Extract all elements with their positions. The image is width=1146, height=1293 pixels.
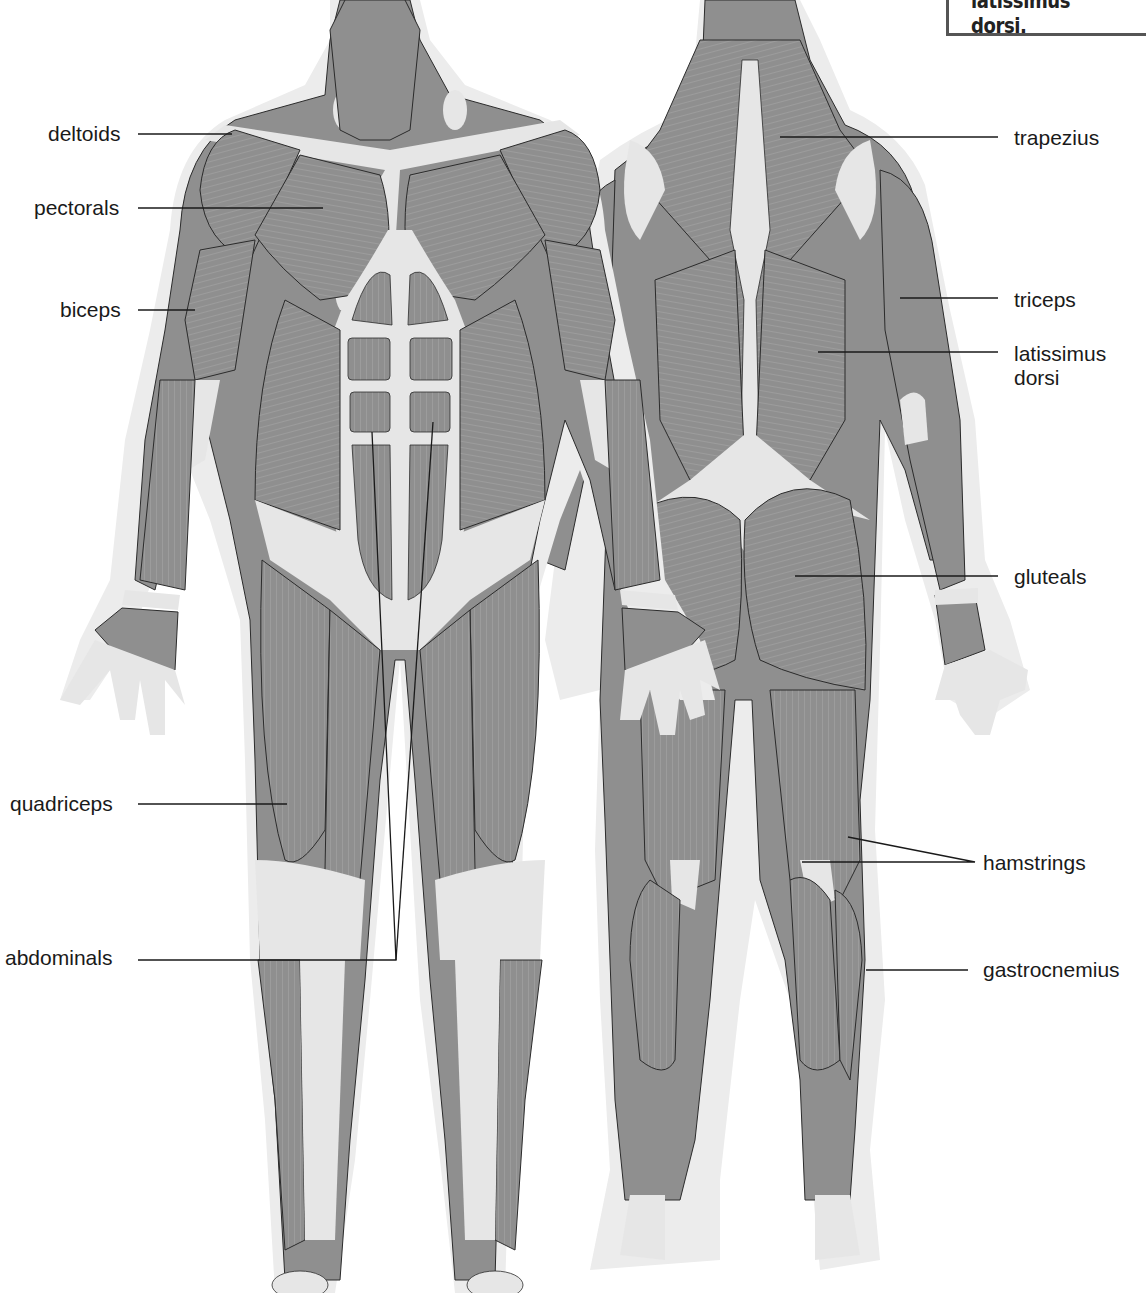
- label-hamstrings: hamstrings: [983, 851, 1086, 875]
- callout-box: latissimus dorsi.: [946, 0, 1146, 36]
- label-biceps: biceps: [60, 298, 121, 322]
- label-latissimus-dorsi: latissimus dorsi: [1014, 342, 1106, 390]
- label-triceps: triceps: [1014, 288, 1076, 312]
- back-figure: [540, 0, 1030, 1270]
- label-pectorals: pectorals: [34, 196, 119, 220]
- label-abdominals: abdominals: [5, 946, 112, 970]
- label-trapezius: trapezius: [1014, 126, 1099, 150]
- label-gastrocnemius: gastrocnemius: [983, 958, 1120, 982]
- callout-text: latissimus dorsi.: [971, 0, 1115, 38]
- label-gluteals: gluteals: [1014, 565, 1086, 589]
- label-deltoids: deltoids: [48, 122, 120, 146]
- label-quadriceps: quadriceps: [10, 792, 113, 816]
